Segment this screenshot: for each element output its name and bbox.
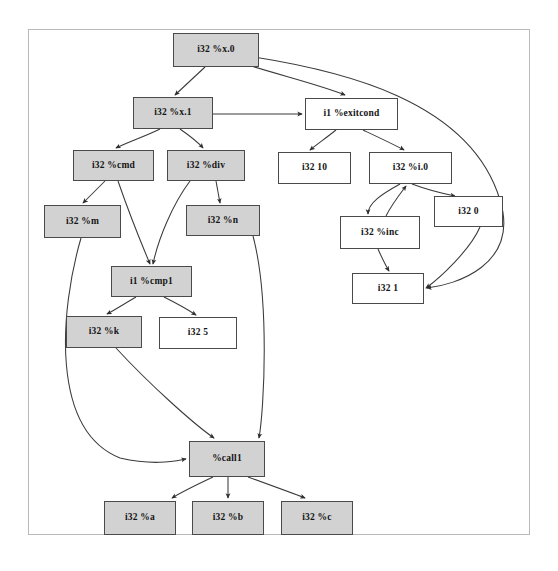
graph-node-label: i32 %x.0 (197, 45, 235, 55)
graph-node-label: i1 %cmp1 (130, 277, 173, 287)
graph-node-c[interactable]: i32 %c (281, 501, 353, 535)
graph-node-n[interactable]: i32 %n (186, 205, 260, 236)
graph-node-m[interactable]: i32 %m (44, 205, 121, 238)
graph-node-label: i32 %c (302, 513, 331, 523)
graph-node-label: i32 10 (302, 163, 327, 173)
graph-node-label: i32 %cmd (92, 161, 135, 171)
graph-node-i0[interactable]: i32 %i.0 (369, 152, 452, 184)
graph-node-label: i32 %m (66, 217, 99, 227)
graph-node-a[interactable]: i32 %a (104, 501, 176, 535)
diagram-canvas: i32 %x.0i32 %x.1i1 %exitcondi32 %cmdi32 … (0, 0, 558, 571)
graph-node-call1[interactable]: %call1 (189, 441, 265, 477)
graph-node-label: i32 %i.0 (393, 163, 428, 173)
graph-node-label: i32 %inc (361, 228, 399, 238)
diagram-frame (28, 29, 530, 535)
graph-node-one[interactable]: i32 1 (352, 273, 424, 304)
graph-node-exitcond[interactable]: i1 %exitcond (305, 98, 398, 130)
graph-node-k[interactable]: i32 %k (66, 316, 142, 348)
graph-node-label: i32 0 (458, 207, 478, 217)
graph-node-div[interactable]: i32 %div (167, 150, 245, 181)
graph-node-label: i1 %exitcond (324, 109, 380, 119)
graph-node-zero[interactable]: i32 0 (434, 196, 503, 227)
graph-node-b[interactable]: i32 %b (192, 501, 264, 535)
graph-node-label: i32 5 (188, 328, 208, 338)
graph-node-cmd[interactable]: i32 %cmd (73, 150, 154, 181)
graph-node-ten[interactable]: i32 10 (278, 152, 351, 184)
graph-node-x0[interactable]: i32 %x.0 (173, 33, 259, 67)
graph-node-inc[interactable]: i32 %inc (340, 216, 420, 249)
graph-node-x1[interactable]: i32 %x.1 (133, 97, 213, 129)
graph-node-label: i32 %a (125, 513, 155, 523)
graph-node-label: i32 %n (208, 216, 239, 226)
graph-node-label: %call1 (212, 454, 242, 464)
graph-node-label: i32 %b (213, 513, 244, 523)
graph-node-label: i32 %k (89, 327, 120, 337)
graph-node-label: i32 1 (378, 284, 398, 294)
graph-node-cmp1[interactable]: i1 %cmp1 (111, 266, 192, 297)
graph-node-label: i32 %div (187, 161, 225, 171)
graph-node-five[interactable]: i32 5 (159, 317, 237, 349)
graph-node-label: i32 %x.1 (154, 108, 192, 118)
